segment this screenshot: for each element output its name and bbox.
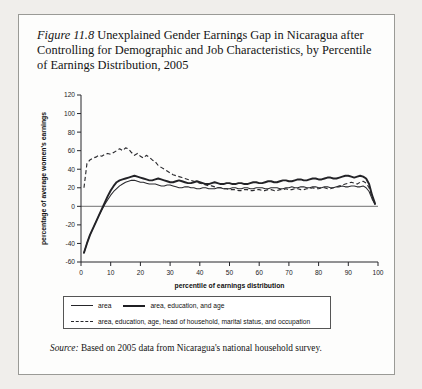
legend-swatch-thick-line-icon (123, 302, 145, 309)
svg-text:-20: -20 (65, 221, 75, 228)
svg-text:80: 80 (315, 269, 323, 276)
svg-text:20: 20 (137, 269, 145, 276)
earnings-gap-line-chart: -60-40-20020406080100120 010203040506070… (29, 85, 386, 300)
svg-text:10: 10 (107, 269, 115, 276)
svg-text:100: 100 (372, 269, 383, 276)
svg-text:40: 40 (196, 269, 204, 276)
legend-row-bottom: area, education, age, head of household,… (64, 313, 330, 329)
legend-entry-area-education-age: area, education, and age (123, 302, 224, 309)
legend-label-full-controls: area, education, age, head of household,… (98, 318, 310, 325)
x-axis-title: percentile of earnings distribution (175, 282, 285, 290)
legend-swatch-dashed-line-icon (71, 318, 93, 325)
y-axis-title: percentage of average women's earnings (40, 112, 48, 245)
source-text: Based on 2005 data from Nicaragua's nati… (79, 343, 322, 353)
legend-entry-full-controls: area, education, age, head of household,… (71, 318, 310, 325)
legend-row-top: area area, education, and age (64, 297, 330, 313)
y-axis-ticks: -60-40-20020406080100120 (64, 91, 81, 265)
svg-text:0: 0 (71, 203, 75, 210)
legend-swatch-thin-line-icon (71, 302, 93, 309)
svg-text:-60: -60 (65, 258, 75, 265)
figure-title: Figure 11.8 Unexplained Gender Earnings … (37, 28, 377, 74)
figure-number: Figure 11.8 (37, 28, 94, 42)
series-dashed (84, 148, 375, 205)
svg-text:40: 40 (68, 166, 76, 173)
data-series-group (84, 148, 375, 253)
svg-text:0: 0 (79, 269, 83, 276)
svg-text:100: 100 (64, 110, 75, 117)
source-label: Source: (50, 343, 79, 353)
svg-text:60: 60 (68, 147, 76, 154)
svg-text:80: 80 (68, 129, 76, 136)
svg-text:50: 50 (226, 269, 234, 276)
svg-text:60: 60 (256, 269, 264, 276)
x-axis-ticks: 0102030405060708090100 (79, 262, 384, 276)
chart-plot-area: -60-40-20020406080100120 010203040506070… (29, 85, 386, 300)
svg-text:30: 30 (166, 269, 174, 276)
svg-text:70: 70 (285, 269, 293, 276)
legend-label-area: area (98, 302, 111, 309)
svg-text:120: 120 (64, 91, 75, 98)
svg-text:20: 20 (68, 184, 76, 191)
legend-label-area-education-age: area, education, and age (150, 302, 224, 309)
source-note: Source: Based on 2005 data from Nicaragu… (50, 343, 370, 353)
legend-entry-area: area (71, 302, 111, 309)
chart-legend: area area, education, and age area, educ… (63, 296, 331, 329)
svg-text:90: 90 (345, 269, 353, 276)
svg-text:-40: -40 (65, 240, 75, 247)
series-thin-solid (84, 180, 375, 252)
